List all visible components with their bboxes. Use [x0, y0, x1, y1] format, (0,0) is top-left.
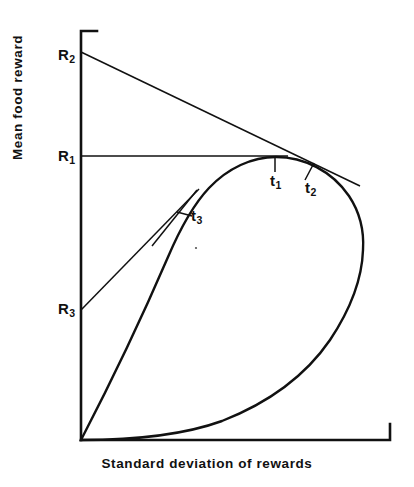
chart-canvas [0, 0, 414, 487]
label-t3: t3 [191, 208, 202, 223]
label-r2: R2 [58, 47, 75, 62]
y-axis-title: Mean food reward [10, 0, 25, 160]
x-axis-title: Standard deviation of rewards [0, 456, 414, 471]
label-r1-sub: 1 [69, 154, 75, 166]
label-t1-sub: 1 [276, 179, 282, 191]
label-t2: t2 [305, 180, 316, 195]
tangent-line-r2 [81, 52, 360, 186]
label-r1-base: R [58, 147, 69, 164]
label-t1: t1 [270, 173, 281, 188]
label-t3-base: t [191, 207, 196, 224]
efficiency-frontier-curve [81, 157, 363, 440]
y-axis [81, 31, 97, 440]
scan-speck [195, 247, 197, 249]
label-r2-base: R [58, 46, 69, 63]
tangent-line-r3 [81, 189, 199, 310]
label-r3: R3 [58, 301, 75, 316]
label-t1-base: t [270, 172, 275, 189]
label-r2-sub: 2 [69, 53, 75, 65]
label-t2-sub: 2 [311, 186, 317, 198]
label-t3-sub: 3 [197, 214, 203, 226]
label-r1: R1 [58, 148, 75, 163]
figure-container: Standard deviation of rewards Mean food … [0, 0, 414, 487]
label-r3-sub: 3 [69, 307, 75, 319]
leader-line-t2 [305, 163, 314, 180]
label-t2-base: t [305, 179, 310, 196]
label-r3-base: R [58, 300, 69, 317]
